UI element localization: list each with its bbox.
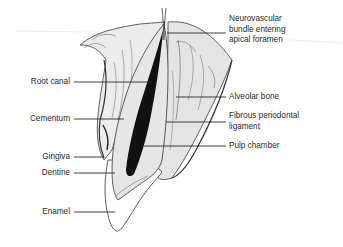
label-neurovascular-bundle: Neurovascular bundle entering apical for… <box>229 14 285 46</box>
label-dentine: Dentine <box>42 168 70 179</box>
label-line: ligament <box>229 122 299 133</box>
label-line: Fibrous periodontal <box>229 111 299 122</box>
label-enamel: Enamel <box>42 207 70 218</box>
label-line: Neurovascular <box>229 14 285 25</box>
label-gingiva: Gingiva <box>42 152 70 163</box>
label-line: apical foramen <box>229 35 285 46</box>
label-alveolar-bone: Alveolar bone <box>229 92 279 103</box>
label-fibrous-periodontal-ligament: Fibrous periodontal ligament <box>229 111 299 132</box>
label-pulp-chamber: Pulp chamber <box>229 141 280 152</box>
label-line: bundle entering <box>229 25 285 36</box>
label-cementum: Cementum <box>30 114 70 125</box>
tooth-diagram: Neurovascular bundle entering apical for… <box>0 0 343 247</box>
label-root-canal: Root canal <box>31 77 70 88</box>
